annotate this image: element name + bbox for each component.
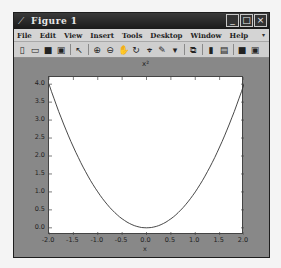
brush-icon[interactable]: ✎: [157, 45, 167, 55]
link-plot-icon[interactable]: ⧉: [188, 45, 198, 55]
y-tick-label: 0.0: [27, 223, 45, 231]
menu-window[interactable]: Window: [190, 31, 221, 40]
zoom-out-icon[interactable]: ⊖: [105, 45, 115, 55]
toolbar-separator: [70, 44, 71, 55]
menubar-dock-arrow-icon[interactable]: ▾: [262, 31, 265, 38]
menu-insert[interactable]: Insert: [90, 31, 114, 40]
x-tick-label: 2.0: [233, 236, 253, 244]
x-tick-label: -1.0: [87, 236, 107, 244]
toolbar-separator: [202, 44, 203, 55]
x-tick-label: 1.0: [184, 236, 204, 244]
minimize-button[interactable]: _: [226, 14, 239, 27]
y-tick-label: 2.5: [27, 133, 45, 141]
x-tick-label: 0.0: [136, 236, 156, 244]
x-tick-label: -1.5: [62, 236, 82, 244]
x-tick-label: 0.5: [160, 236, 180, 244]
menu-bar: File Edit View Insert Tools Desktop Wind…: [14, 29, 269, 42]
y-tick-label: 1.5: [27, 169, 45, 177]
menu-tools[interactable]: Tools: [122, 31, 142, 40]
y-tick-label: 4.0: [27, 79, 45, 87]
maximize-button[interactable]: □: [240, 14, 253, 27]
insert-colorbar-icon[interactable]: ▮: [206, 45, 216, 55]
toolbar-separator: [88, 44, 89, 55]
figure-canvas: x² 0.00.51.01.52.02.53.03.54.0 -2.0-1.5-…: [14, 58, 269, 257]
window-controls: _ □ ×: [226, 14, 267, 27]
new-figure-icon[interactable]: ▯: [17, 45, 27, 55]
show-plot-tools-icon[interactable]: ▣: [250, 45, 260, 55]
plot-title: x²: [142, 60, 149, 68]
insert-legend-icon[interactable]: ▤: [219, 45, 229, 55]
toolbar-separator: [184, 44, 185, 55]
x-axis-label: x: [143, 245, 147, 253]
close-button[interactable]: ×: [254, 14, 267, 27]
x-tick-label: 1.5: [209, 236, 229, 244]
y-tick-label: 3.0: [27, 115, 45, 123]
print-icon[interactable]: ▣: [56, 45, 66, 55]
x-tick-label: -0.5: [111, 236, 131, 244]
pan-hand-icon[interactable]: ✋: [118, 45, 128, 55]
figure-toolbar: ▯▭■▣↖⊕⊖✋↻⌖✎▾⧉▮▤■▣: [14, 42, 269, 58]
figure-window: ⟋ Figure 1 _ □ × File Edit View Insert T…: [13, 12, 270, 258]
y-tick-label: 0.5: [27, 205, 45, 213]
title-bar[interactable]: ⟋ Figure 1 _ □ ×: [14, 13, 269, 29]
brush-dropdown-icon[interactable]: ▾: [170, 45, 180, 55]
save-icon[interactable]: ■: [43, 45, 53, 55]
data-cursor-icon[interactable]: ⌖: [144, 45, 154, 55]
y-tick-label: 2.0: [27, 151, 45, 159]
zoom-in-icon[interactable]: ⊕: [92, 45, 102, 55]
x-tick-label: -2.0: [38, 236, 58, 244]
plot-line: [49, 77, 244, 235]
menu-desktop[interactable]: Desktop: [150, 31, 182, 40]
matlab-figure-icon: ⟋: [18, 16, 28, 26]
edit-plot-arrow-icon[interactable]: ↖: [74, 45, 84, 55]
open-file-icon[interactable]: ▭: [30, 45, 40, 55]
menu-edit[interactable]: Edit: [40, 31, 56, 40]
menu-view[interactable]: View: [64, 31, 82, 40]
axes[interactable]: [48, 76, 243, 234]
menu-file[interactable]: File: [17, 31, 32, 40]
rotate-3d-icon[interactable]: ↻: [131, 45, 141, 55]
toolbar-separator: [233, 44, 234, 55]
y-tick-label: 1.0: [27, 187, 45, 195]
hide-plot-tools-icon[interactable]: ■: [237, 45, 247, 55]
window-title: Figure 1: [31, 16, 78, 26]
menu-help[interactable]: Help: [230, 31, 249, 40]
y-tick-label: 3.5: [27, 97, 45, 105]
